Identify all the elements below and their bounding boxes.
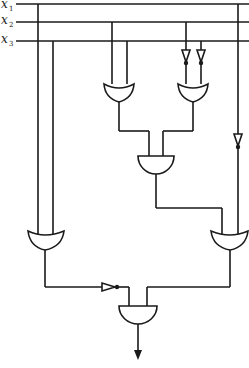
logic-circuit-diagram: x 1 x 2 x 3 (0, 0, 249, 368)
or-gate-left-top (104, 84, 134, 102)
svg-text:3: 3 (9, 40, 13, 48)
svg-text:2: 2 (9, 21, 13, 29)
or-gate-right-top (178, 84, 208, 102)
or-gate-left-bottom (28, 231, 64, 250)
inverter-x3 (197, 50, 205, 65)
svg-text:x: x (1, 32, 8, 46)
and-gate-output (119, 306, 157, 324)
svg-text:x: x (1, 0, 8, 11)
input-label-x2: x 2 (1, 13, 13, 29)
input-label-x3: x 3 (1, 32, 13, 48)
input-label-x1: x 1 (1, 0, 13, 13)
inverter-x2 (182, 50, 190, 65)
inverter-left-or-output (102, 283, 119, 291)
wires (38, 4, 238, 352)
svg-text:1: 1 (9, 5, 13, 13)
and-gate-middle (138, 156, 174, 174)
inverter-x1 (234, 134, 242, 149)
output-arrow-icon (134, 350, 142, 360)
or-gate-right-bottom (211, 231, 248, 250)
svg-text:x: x (1, 13, 8, 27)
